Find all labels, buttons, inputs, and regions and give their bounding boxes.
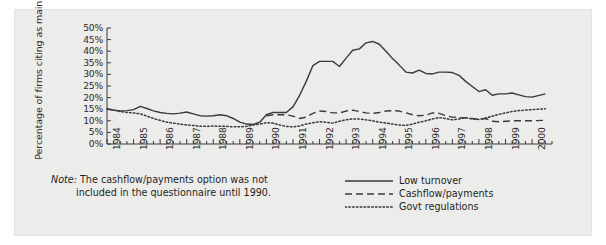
- note-line-1: The cashflow/payments option was not: [77, 174, 268, 185]
- legend-item-cashflow-payments: Cashflow/payments: [345, 187, 493, 200]
- legend-label: Low turnover: [399, 175, 462, 186]
- legend-swatch-dashed-icon: [345, 189, 393, 199]
- legend-label: Govt regulations: [399, 201, 479, 212]
- line-chart-svg: [15, 10, 593, 237]
- series-line-cashflow-payments: [266, 110, 545, 122]
- legend-item-low-turnover: Low turnover: [345, 174, 493, 187]
- legend-swatch-solid-icon: [345, 176, 393, 186]
- chart-plot-area: Percentage of firms citing as main probl…: [15, 10, 593, 237]
- chart-figure: Percentage of firms citing as main probl…: [14, 9, 592, 236]
- axis-spines: [107, 28, 552, 144]
- series-line-low-turnover: [107, 41, 545, 124]
- legend-swatch-dotted-icon: [345, 202, 393, 212]
- note-line-2: included in the questionnaire until 1990…: [51, 186, 341, 199]
- legend-item-govt-regulations: Govt regulations: [345, 200, 493, 213]
- legend-label: Cashflow/payments: [399, 188, 493, 199]
- chart-note: Note: The cashflow/payments option was n…: [51, 173, 341, 199]
- note-prefix: Note:: [51, 174, 77, 185]
- chart-legend: Low turnoverCashflow/paymentsGovt regula…: [345, 174, 493, 213]
